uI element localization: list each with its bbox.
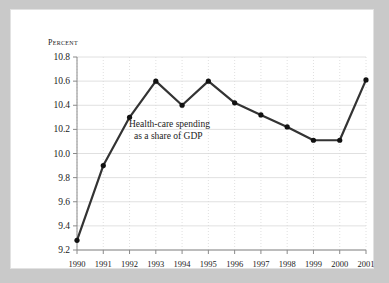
data-point [206,79,211,84]
chart-svg [11,10,389,283]
y-axis-label: 9.6 [40,197,70,207]
data-point [179,103,184,108]
y-axis-label: 9.8 [40,173,70,183]
y-axis-label: 9.2 [40,245,70,255]
data-points [74,77,368,243]
data-point [153,79,158,84]
data-point [311,138,316,143]
annotation-line-1: Health-care spending [129,118,210,130]
data-point [101,163,106,168]
gridlines [77,57,366,250]
page-background: Percent 10.810.610.410.210.09.89.69.49.2… [0,0,389,283]
data-point [337,138,342,143]
data-point [285,124,290,129]
y-axis-label: 10.2 [40,124,70,134]
chart-card: Percent 10.810.610.410.210.09.89.69.49.2… [11,10,373,268]
data-line [77,80,366,240]
y-axis-label: 9.4 [40,221,70,231]
y-axis-label: 10.4 [40,100,70,110]
data-point [74,238,79,243]
data-point [232,100,237,105]
plot-area: 10.810.610.410.210.09.89.69.49.2 1990199… [11,10,389,283]
data-point [363,77,368,82]
data-point [258,112,263,117]
annotation-line-2: as a share of GDP [134,130,203,142]
x-axis-label: 2001 [349,259,383,269]
y-axis-label: 10.8 [40,52,70,62]
y-axis-label: 10.6 [40,76,70,86]
axis-ticks [73,57,366,254]
y-axis-label: 10.0 [40,149,70,159]
